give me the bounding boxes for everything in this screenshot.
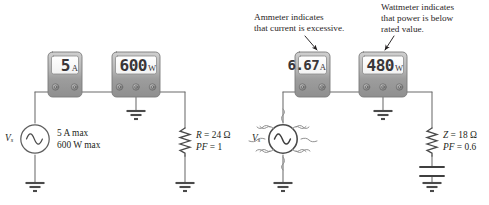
wattmeter-annotation-line-3: rated value.	[381, 24, 454, 35]
right-load-value-Z: = 18 Ω	[448, 130, 477, 140]
right-load-value-PF: = 0.6	[454, 142, 476, 152]
wattmeter-annotation: Wattmeter indicates that power is below …	[381, 2, 454, 35]
right-source-symbol	[269, 125, 297, 153]
left-load-label-pf: PF = 1	[196, 142, 222, 153]
left-wattmeter-unit: W	[148, 63, 156, 73]
wattmeter-annotation-arrow	[385, 36, 394, 50]
ground-right-wattmeter	[374, 111, 393, 119]
ground-left-wattmeter	[127, 111, 146, 119]
wattmeter-annotation-line-1: Wattmeter indicates	[381, 2, 454, 13]
circuit-figure: 5 A 600 W 6.67 A 480 W Vs 5 A max 600 W …	[0, 0, 489, 205]
ammeter-annotation-arrow	[305, 36, 317, 50]
right-load-capacitor	[420, 167, 444, 176]
left-ammeter-unit: A	[72, 63, 78, 73]
left-load-value-PF: = 1	[207, 142, 222, 152]
right-load-label-pf: PF = 0.6	[443, 142, 476, 153]
left-source-symbol	[21, 125, 49, 153]
right-wattmeter-unit: W	[395, 63, 403, 73]
right-wattmeter-value: 480	[366, 57, 394, 75]
left-load-var-PF: PF	[196, 142, 207, 152]
left-wattmeter-value: 600	[119, 57, 147, 75]
ground-left-load	[176, 183, 195, 191]
left-source-label: Vs	[5, 133, 13, 144]
right-ammeter-reading: 6.67 A	[299, 57, 326, 73]
right-source-label: Vs	[252, 133, 260, 144]
left-ammeter-value: 5	[61, 57, 70, 75]
ammeter-annotation-line-1: Ammeter indicates	[254, 12, 344, 23]
right-circuit-wires	[283, 92, 432, 183]
right-ammeter-unit: A	[320, 62, 326, 72]
right-wattmeter-reading: 480 W	[363, 57, 403, 73]
left-source-rating-2: 600 W max	[57, 140, 100, 151]
left-wattmeter-reading: 600 W	[116, 57, 156, 73]
wattmeter-annotation-line-2: that power is below	[381, 13, 454, 24]
left-source-rating-1: 5 A max	[57, 128, 88, 139]
right-load-resistor	[427, 128, 437, 156]
ground-left-source	[26, 183, 45, 191]
right-ammeter-value: 6.67	[287, 57, 319, 73]
ammeter-annotation: Ammeter indicates that current is excess…	[254, 12, 344, 34]
ground-right-load	[423, 183, 442, 191]
right-source-label-subscript: s	[258, 136, 261, 143]
left-load-value-R: = 24 Ω	[202, 130, 231, 140]
ground-right-source	[274, 183, 293, 191]
left-ammeter-reading: 5 A	[52, 57, 78, 73]
left-source-label-subscript: s	[11, 136, 14, 143]
left-load-resistor	[180, 128, 190, 156]
annotation-arrows	[305, 36, 394, 50]
right-load-label-impedance: Z = 18 Ω	[443, 130, 477, 141]
ammeter-annotation-line-2: that current is excessive.	[254, 23, 344, 34]
left-load-label-resistance: R = 24 Ω	[196, 130, 230, 141]
right-load-var-PF: PF	[443, 142, 454, 152]
